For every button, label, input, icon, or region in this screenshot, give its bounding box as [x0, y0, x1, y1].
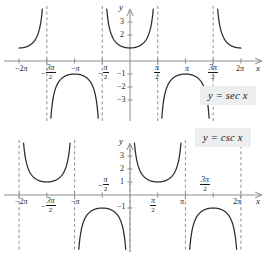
cosecant-xtick-pi: π — [180, 197, 184, 206]
secant-xtick--3pi-2: −3π2 — [41, 62, 56, 81]
cosecant-xtick--2pi: −2π — [15, 197, 28, 206]
cosecant-ytick-3: 3 — [120, 151, 124, 160]
secant-xtick--pi-2: −π2 — [98, 62, 109, 81]
chart-panel-secant: y x −2π −3π2 −π −π2 π2 π 3π2 2π 3 2 −1 −… — [0, 0, 267, 124]
cosecant-xtick-3pi-2: 3π2 — [200, 174, 210, 193]
secant-xtick-pi: π — [185, 64, 189, 73]
cosecant-ytick-1: 1 — [120, 177, 124, 186]
secant-xtick-3pi-2: 3π2 — [208, 62, 218, 81]
secant-legend-label: y = sec x — [200, 86, 256, 105]
secant-xtick--pi: −π — [71, 64, 80, 73]
secant-xtick--2pi: −2π — [15, 64, 28, 73]
secant-xtick-2pi: 2π — [236, 64, 244, 73]
cosecant-ytick--1: −1 — [117, 202, 126, 211]
trig-reciprocal-graphs-figure: y x −2π −3π2 −π −π2 π2 π 3π2 2π 3 2 −1 −… — [0, 0, 267, 255]
cosecant-x-axis-label: x — [256, 196, 260, 206]
secant-ytick-2: 2 — [120, 30, 124, 39]
cosecant-ytick-2: 2 — [120, 164, 124, 173]
secant-y-axis-label: y — [119, 2, 123, 12]
cosecant-y-axis-label: y — [119, 136, 123, 146]
cosecant-xtick--3pi-2: −3π2 — [41, 195, 56, 214]
cosecant-xtick-2pi: 2π — [233, 197, 241, 206]
chart-panel-cosecant: y x −2π −3π2 −π −π2 π2 π 3π2 2π 3 2 1 −1… — [0, 124, 267, 255]
cosecant-legend-label: y = csc x — [195, 128, 251, 147]
secant-ytick-3: 3 — [120, 17, 124, 26]
cosecant-xtick-pi-2: π2 — [150, 195, 156, 214]
secant-ytick--2: −2 — [117, 82, 126, 91]
secant-ytick--1: −1 — [117, 69, 126, 78]
secant-x-axis-label: x — [256, 63, 260, 73]
cosecant-xtick--pi: −π — [71, 197, 80, 206]
secant-xtick-pi-2: π2 — [154, 62, 160, 81]
cosecant-xtick--pi-2: −π2 — [98, 174, 109, 193]
secant-ytick--3: −3 — [117, 95, 126, 104]
